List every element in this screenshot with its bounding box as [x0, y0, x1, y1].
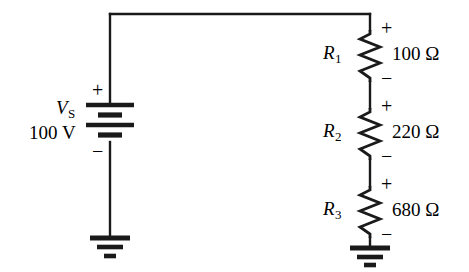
resistor-zigzag-r1	[360, 30, 380, 82]
resistor-r2-minus-sign: −	[381, 146, 392, 166]
resistor-r1-minus-sign: −	[381, 68, 392, 88]
circuit-diagram: VS 100 V + − R1 100 Ω + − R2 220 Ω + − R…	[0, 0, 469, 272]
resistor-zigzag-r2	[360, 108, 380, 160]
resistor-r2-value-label: 220 Ω	[392, 122, 439, 141]
resistor-r3-minus-sign: −	[381, 224, 392, 244]
resistor-r3-plus-sign: +	[381, 174, 392, 194]
resistor-r3-reference-label: R3	[323, 199, 342, 221]
resistor-r1-plus-sign: +	[381, 18, 392, 38]
battery-plates	[86, 105, 134, 135]
ground-symbol-right	[350, 248, 390, 265]
source-plus-sign: +	[92, 80, 103, 100]
resistor-r2-reference-label: R2	[323, 121, 342, 143]
resistor-r1-reference-label: R1	[323, 43, 342, 65]
source-minus-sign: −	[92, 141, 103, 161]
ground-symbol-left	[90, 238, 130, 256]
source-reference-label: VS	[56, 98, 75, 120]
resistor-r1-value-label: 100 Ω	[392, 44, 439, 63]
resistor-r2-plus-sign: +	[381, 96, 392, 116]
resistor-r3-value-label: 680 Ω	[392, 200, 439, 219]
resistor-zigzag-r3	[360, 186, 380, 238]
source-value-label: 100 V	[29, 123, 76, 142]
